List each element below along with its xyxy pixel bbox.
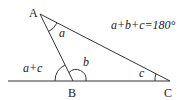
angle-label-exterior: a+c <box>23 61 43 75</box>
triangle-diagram: A B C a b c a+c a+b+c=180° <box>0 0 189 100</box>
angle-arc-exterior-b <box>55 65 65 81</box>
point-label-a: A <box>29 6 38 20</box>
equation-label: a+b+c=180° <box>111 18 176 32</box>
angle-arc-c <box>155 74 156 81</box>
angle-arc-a <box>49 23 58 32</box>
angle-arc-b <box>69 70 86 81</box>
point-label-b: B <box>68 86 76 100</box>
angle-label-b: b <box>83 55 89 69</box>
point-label-c: C <box>164 86 172 100</box>
angle-label-c: c <box>139 66 145 80</box>
angle-label-a: a <box>59 26 65 40</box>
